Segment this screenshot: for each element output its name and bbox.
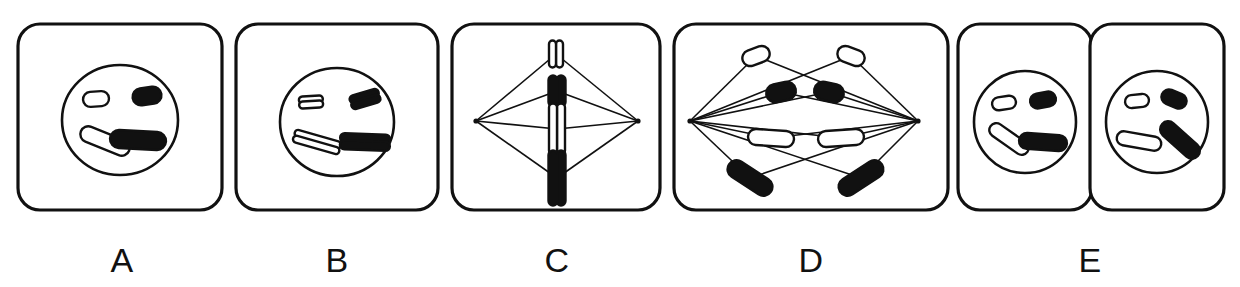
panel-a (18, 24, 222, 210)
short-light-chromosome-pair-chromatid-2 (549, 41, 556, 68)
long-light-chromatid-right-body (817, 128, 864, 147)
short-light-chromosome-pair (299, 95, 324, 108)
mitosis-diagram-canvas: ABCDE (0, 0, 1240, 287)
spindle-pole-left (473, 118, 478, 123)
short-light-chromosome-pair-chromatid-2 (299, 100, 323, 108)
short-dark-chromosome-body (131, 86, 162, 107)
short-light-chromosome (83, 91, 110, 108)
short-light-chromosome-daughter-left-body (991, 95, 1017, 111)
long-dark-chromosome-pair-chromatid-2 (340, 140, 390, 151)
long-light-chromosome-pair-chromatid-2 (549, 104, 557, 155)
panel-d (674, 24, 948, 210)
long-dark-chromosome (110, 130, 167, 151)
panel-e (958, 24, 1224, 210)
short-dark-chromosome-pair (549, 76, 566, 107)
mitosis-figure: ABCDE (0, 0, 1240, 287)
spindle-pole-right (635, 118, 640, 123)
short-dark-chromosome (131, 86, 162, 107)
long-light-chromatid-left (747, 128, 794, 147)
short-light-chromosome-pair (549, 41, 563, 68)
panel-label-a: A (110, 241, 133, 279)
panel-label-e: E (1078, 241, 1101, 279)
nuclear-envelope-e (974, 71, 1076, 173)
panel-labels-layer: ABCDE (110, 241, 1101, 279)
spindle-pole-left (687, 118, 692, 123)
panel-label-d: D (798, 241, 823, 279)
short-dark-chromosome-pair-chromatid-2 (549, 76, 558, 107)
short-light-chromosome-body (83, 91, 110, 108)
panel-label-c: C (544, 241, 569, 279)
long-dark-chromosome-pair (549, 151, 566, 206)
short-light-chromosome-daughter-right-body (1124, 93, 1149, 108)
long-dark-chromosome-daughter-left (1019, 132, 1068, 151)
short-light-chromosome-daughter-left (991, 95, 1017, 111)
nuclear-envelope-a (62, 65, 178, 175)
long-light-chromatid-left-body (747, 128, 794, 147)
long-dark-chromosome-pair-chromatid-2 (549, 151, 558, 206)
panel-b (236, 24, 438, 210)
panel-label-b: B (325, 241, 348, 279)
long-light-chromosome-pair-chromatid-1 (557, 104, 565, 155)
long-light-chromatid-right (817, 128, 864, 147)
nuclear-envelope-b (280, 68, 394, 176)
long-light-chromosome-pair (549, 104, 565, 155)
short-light-chromosome-daughter-right (1124, 93, 1149, 108)
long-dark-chromosome-pair (340, 133, 391, 151)
long-dark-chromosome-body (110, 130, 167, 151)
panels-layer (18, 24, 1224, 210)
panel-c (452, 24, 660, 210)
long-dark-chromosome-daughter-left-body (1019, 132, 1068, 151)
spindle-pole-right (915, 118, 920, 123)
